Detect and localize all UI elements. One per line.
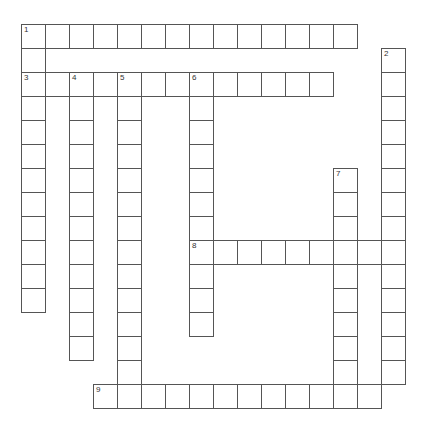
crossword-cell[interactable] (309, 240, 334, 265)
crossword-cell[interactable] (21, 96, 46, 121)
crossword-cell[interactable] (309, 24, 334, 49)
crossword-cell[interactable] (69, 264, 94, 289)
crossword-cell[interactable] (21, 120, 46, 145)
crossword-cell[interactable] (21, 264, 46, 289)
crossword-cell[interactable] (285, 72, 310, 97)
crossword-cell[interactable] (237, 240, 262, 265)
crossword-cell[interactable]: 3 (21, 72, 46, 97)
crossword-cell[interactable] (237, 384, 262, 409)
crossword-cell[interactable] (381, 336, 406, 361)
crossword-cell[interactable] (189, 264, 214, 289)
crossword-cell[interactable] (69, 144, 94, 169)
crossword-cell[interactable] (141, 384, 166, 409)
crossword-cell[interactable] (117, 192, 142, 217)
crossword-cell[interactable] (21, 168, 46, 193)
crossword-cell[interactable] (117, 216, 142, 241)
crossword-cell[interactable] (69, 168, 94, 193)
crossword-cell[interactable] (213, 240, 238, 265)
crossword-cell[interactable] (189, 120, 214, 145)
crossword-cell[interactable] (69, 96, 94, 121)
crossword-cell[interactable] (381, 216, 406, 241)
crossword-cell[interactable] (165, 24, 190, 49)
crossword-cell[interactable] (189, 192, 214, 217)
crossword-cell[interactable] (333, 216, 358, 241)
crossword-cell[interactable] (285, 240, 310, 265)
crossword-cell[interactable] (261, 24, 286, 49)
crossword-cell[interactable]: 7 (333, 168, 358, 193)
crossword-cell[interactable] (189, 216, 214, 241)
crossword-cell[interactable] (189, 384, 214, 409)
crossword-cell[interactable] (69, 120, 94, 145)
crossword-cell[interactable] (69, 312, 94, 337)
crossword-cell[interactable] (381, 96, 406, 121)
crossword-cell[interactable] (213, 24, 238, 49)
crossword-cell[interactable] (333, 336, 358, 361)
crossword-cell[interactable] (69, 240, 94, 265)
crossword-cell[interactable] (21, 288, 46, 313)
crossword-cell[interactable] (213, 72, 238, 97)
crossword-cell[interactable] (237, 72, 262, 97)
crossword-cell[interactable] (333, 312, 358, 337)
crossword-cell[interactable] (333, 240, 358, 265)
crossword-cell[interactable]: 9 (93, 384, 118, 409)
crossword-cell[interactable] (69, 288, 94, 313)
crossword-cell[interactable] (117, 96, 142, 121)
crossword-cell[interactable] (21, 192, 46, 217)
crossword-cell[interactable] (381, 264, 406, 289)
crossword-cell[interactable] (357, 240, 382, 265)
crossword-cell[interactable] (141, 72, 166, 97)
crossword-cell[interactable] (381, 312, 406, 337)
crossword-cell[interactable]: 1 (21, 24, 46, 49)
crossword-cell[interactable] (381, 72, 406, 97)
crossword-cell[interactable] (309, 72, 334, 97)
crossword-cell[interactable] (69, 24, 94, 49)
crossword-cell[interactable] (117, 144, 142, 169)
crossword-cell[interactable] (21, 216, 46, 241)
crossword-cell[interactable] (333, 360, 358, 385)
crossword-cell[interactable] (189, 96, 214, 121)
crossword-cell[interactable] (381, 144, 406, 169)
crossword-cell[interactable]: 6 (189, 72, 214, 97)
crossword-cell[interactable] (117, 24, 142, 49)
crossword-cell[interactable] (333, 24, 358, 49)
crossword-cell[interactable] (189, 288, 214, 313)
crossword-cell[interactable] (21, 240, 46, 265)
crossword-cell[interactable] (117, 168, 142, 193)
crossword-cell[interactable] (117, 264, 142, 289)
crossword-cell[interactable] (381, 288, 406, 313)
crossword-cell[interactable]: 8 (189, 240, 214, 265)
crossword-cell[interactable]: 2 (381, 48, 406, 73)
crossword-cell[interactable] (117, 312, 142, 337)
crossword-cell[interactable] (381, 192, 406, 217)
crossword-cell[interactable] (189, 144, 214, 169)
crossword-cell[interactable] (21, 48, 46, 73)
crossword-cell[interactable] (237, 24, 262, 49)
crossword-cell[interactable] (69, 216, 94, 241)
crossword-cell[interactable] (261, 72, 286, 97)
crossword-cell[interactable] (69, 336, 94, 361)
crossword-cell[interactable] (381, 120, 406, 145)
crossword-cell[interactable] (93, 72, 118, 97)
crossword-cell[interactable] (189, 24, 214, 49)
crossword-cell[interactable] (333, 264, 358, 289)
crossword-cell[interactable] (333, 192, 358, 217)
crossword-cell[interactable] (261, 240, 286, 265)
crossword-cell[interactable] (117, 336, 142, 361)
crossword-cell[interactable] (117, 288, 142, 313)
crossword-cell[interactable]: 4 (69, 72, 94, 97)
crossword-cell[interactable] (309, 384, 334, 409)
crossword-cell[interactable] (165, 72, 190, 97)
crossword-cell[interactable] (45, 72, 70, 97)
crossword-cell[interactable] (333, 384, 358, 409)
crossword-cell[interactable] (261, 384, 286, 409)
crossword-cell[interactable] (285, 384, 310, 409)
crossword-cell[interactable] (69, 192, 94, 217)
crossword-cell[interactable] (189, 168, 214, 193)
crossword-cell[interactable] (93, 24, 118, 49)
crossword-cell[interactable] (45, 24, 70, 49)
crossword-cell[interactable] (381, 168, 406, 193)
crossword-cell[interactable] (381, 240, 406, 265)
crossword-cell[interactable] (141, 24, 166, 49)
crossword-cell[interactable] (21, 144, 46, 169)
crossword-cell[interactable] (189, 312, 214, 337)
